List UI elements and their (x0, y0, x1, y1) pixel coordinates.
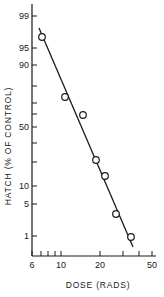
y-tick-label: 90 (19, 60, 29, 70)
y-axis: 999590501051 (19, 4, 37, 256)
data-points (39, 34, 135, 241)
y-tick-label: 99 (19, 11, 29, 21)
data-point-marker (102, 173, 109, 180)
data-point-marker (80, 112, 87, 119)
x-axis: 6102050 (29, 251, 157, 270)
x-tick-label: 20 (95, 260, 105, 270)
y-tick-label: 5 (24, 199, 29, 209)
x-tick-label: 50 (147, 260, 157, 270)
data-point-marker (62, 94, 69, 101)
x-tick-label: 6 (29, 260, 34, 270)
y-axis-ticks: 999590501051 (19, 11, 37, 241)
x-axis-ticks: 6102050 (29, 251, 157, 270)
dose-response-chart: 999590501051 6102050 DOSE (RADS) HATCH (… (0, 0, 164, 297)
data-point-marker (93, 157, 100, 164)
data-point-marker (128, 234, 135, 241)
data-point-marker (113, 211, 120, 218)
y-tick-label: 50 (19, 122, 29, 132)
y-tick-label: 1 (24, 231, 29, 241)
x-tick-label: 10 (56, 260, 66, 270)
x-axis-title: DOSE (RADS) (66, 280, 131, 290)
data-point-marker (39, 34, 46, 41)
y-tick-label: 10 (19, 181, 29, 191)
y-tick-label: 95 (19, 43, 29, 53)
y-axis-title: HATCH (% OF CONTROL) (3, 87, 13, 205)
